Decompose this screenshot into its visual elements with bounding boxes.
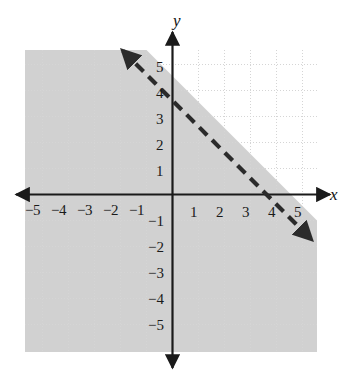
x-tick-label--1: −1 xyxy=(129,203,144,218)
x-tick-label--2: −2 xyxy=(103,203,118,218)
x-tick-label-5: 5 xyxy=(294,205,302,220)
y-tick-label-4: 4 xyxy=(156,86,164,101)
y-tick-label--4: −4 xyxy=(148,292,164,307)
y-tick-label--2: −2 xyxy=(148,240,164,255)
y-axis-label: y xyxy=(173,12,181,29)
x-axis-label: x xyxy=(330,186,338,203)
x-tick-label-2: 2 xyxy=(216,205,224,220)
coordinate-plane-svg xyxy=(0,0,347,373)
y-tick-label-3: 3 xyxy=(156,112,164,127)
y-tick-label--1: −1 xyxy=(148,214,164,229)
x-tick-label-1: 1 xyxy=(190,205,198,220)
x-tick-label-4: 4 xyxy=(268,205,276,220)
y-tick-label--5: −5 xyxy=(148,318,164,333)
y-tick-label--3: −3 xyxy=(148,266,164,281)
inequality-graph-figure: y x −5 −4 −3 −2 −1 1 2 3 4 5 5 4 3 2 1 −… xyxy=(0,0,347,373)
y-tick-label-5: 5 xyxy=(156,60,164,75)
x-tick-label--3: −3 xyxy=(77,203,92,218)
y-tick-label-2: 2 xyxy=(156,138,164,153)
x-tick-label--4: −4 xyxy=(51,203,66,218)
y-tick-label-1: 1 xyxy=(156,164,164,179)
x-tick-label-3: 3 xyxy=(242,205,250,220)
x-tick-label--5: −5 xyxy=(25,203,40,218)
